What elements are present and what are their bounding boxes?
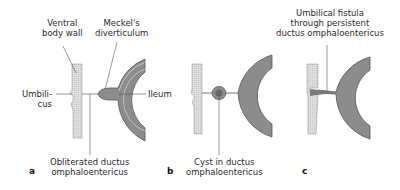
panel-letter-b: b <box>167 166 173 176</box>
label-ileum: Ileum <box>148 89 172 99</box>
label-meckels-diverticulum: Meckel's diverticulum <box>95 18 148 38</box>
panel-letter-a: a <box>29 166 35 176</box>
panel-b-ileum <box>238 55 272 137</box>
panel-a-ileum <box>98 59 145 141</box>
panel-a-drawing <box>56 42 146 155</box>
label-cyst-in-ductus: Cyst in ductus omphaloentericus <box>186 157 263 177</box>
label-ventral-body-wall: Ventral body wall <box>42 18 83 38</box>
label-obliterated-ductus: Obliterated ductus omphaloentericus <box>50 157 129 177</box>
label-umbilicus: Umbili- cus <box>22 89 52 109</box>
panel-c-body-wall <box>307 64 318 134</box>
panel-b-drawing <box>191 55 272 155</box>
panel-letter-c: c <box>302 166 307 176</box>
panel-a-body-wall <box>70 64 82 138</box>
panel-b-body-wall <box>191 64 202 134</box>
panel-c-fistula <box>310 89 336 96</box>
panel-c-ileum <box>318 57 370 139</box>
panel-c-drawing <box>307 45 370 139</box>
label-umbilical-fistula: Umbilical fistula through persistent duc… <box>276 8 384 38</box>
